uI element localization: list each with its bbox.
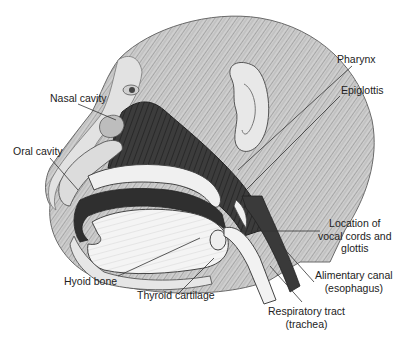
tongue <box>88 209 229 273</box>
label-respiratory-tract: Respiratory tract (trachea) <box>268 305 345 330</box>
label-vocal-cords-line2: vocal cords and <box>318 230 392 243</box>
label-hyoid-bone: Hyoid bone <box>64 275 117 288</box>
label-nasal-cavity: Nasal cavity <box>50 92 107 105</box>
label-alimentary-canal-line2: (esophagus) <box>315 282 393 295</box>
label-vocal-cords-line3: glottis <box>318 242 392 255</box>
label-vocal-cords-line1: Location of <box>318 217 392 230</box>
label-respiratory-tract-line1: Respiratory tract <box>268 305 345 318</box>
eye-icon <box>123 85 139 95</box>
label-alimentary-canal-line1: Alimentary canal <box>315 269 393 282</box>
label-alimentary-canal: Alimentary canal (esophagus) <box>315 269 393 294</box>
label-vocal-cords: Location of vocal cords and glottis <box>318 217 392 255</box>
label-respiratory-tract-line2: (trachea) <box>268 318 345 331</box>
label-oral-cavity: Oral cavity <box>13 145 63 158</box>
label-pharynx: Pharynx <box>337 53 376 66</box>
label-thyroid-cartilage: Thyroid cartilage <box>137 289 215 302</box>
label-epiglottis: Epiglottis <box>341 84 384 97</box>
